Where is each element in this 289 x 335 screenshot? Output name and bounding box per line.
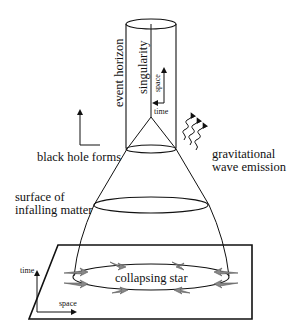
collapsing-star-label: collapsing star [115, 271, 188, 285]
lower-space-label: space [59, 299, 77, 308]
infalling-matter-surface [74, 149, 229, 276]
gravitational-label-1: gravitational [212, 147, 276, 161]
upper-axes: space time [153, 70, 169, 116]
gravitational-label-2: wave emission [212, 160, 287, 174]
upper-time-label: time [154, 107, 169, 116]
upper-space-label: space [153, 74, 162, 92]
event-horizon-label: event horizon [112, 38, 126, 107]
gravitational-wave-icon [183, 115, 204, 150]
lower-time-label: time [20, 266, 35, 275]
black-hole-forms-arrow [80, 112, 100, 145]
surface-label-1: surface of [15, 190, 65, 204]
black-hole-forms-label: black hole forms [37, 150, 121, 164]
black-hole-diagram: space time time space event horizon sing… [0, 0, 289, 335]
inner-cone [126, 117, 176, 153]
singularity-label: singularity [136, 40, 150, 94]
surface-label-2: infalling matter [15, 203, 93, 217]
